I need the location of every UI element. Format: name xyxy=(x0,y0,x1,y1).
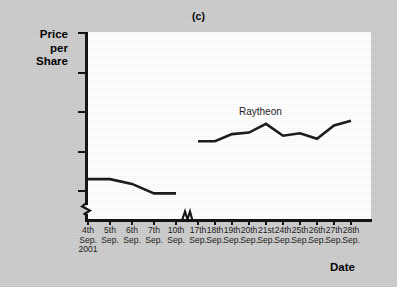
stock-price-chart: (c) Price per Share Date $4540353025 4th… xyxy=(0,0,397,287)
x-axis-break-icon xyxy=(182,212,193,221)
axis-break-marks xyxy=(0,0,397,287)
y-axis-break-icon xyxy=(82,203,90,215)
